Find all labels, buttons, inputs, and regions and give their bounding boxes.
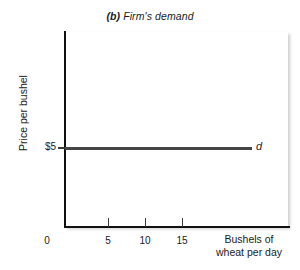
panel-letter: (b) [106,10,120,22]
y-axis-tick-label-5: $5 [26,141,56,152]
x-axis-tick-15 [182,218,183,227]
x-axis-tick-label-5: 5 [93,235,123,246]
x-axis-tick-5 [108,218,109,227]
chart-title: (b) Firm's demand [0,10,300,22]
x-axis-title-line-2: wheat per day [198,246,300,259]
y-axis-line [64,31,66,228]
demand-curve [65,147,252,150]
x-axis-tick-label-10: 10 [130,235,160,246]
demand-curve-label: d [256,140,262,152]
x-axis-title-line-1: Bushels of [198,233,300,246]
x-axis-title: Bushels of wheat per day [198,233,300,259]
plot-area [65,32,288,227]
x-axis-line [64,226,290,228]
firm-demand-chart: (b) Firm's demand $5 Price per bushel 0 … [0,0,300,270]
y-axis-title: Price per bushel [17,58,29,168]
x-axis-tick-10 [145,218,146,227]
chart-title-text: Firm's demand [123,10,193,22]
x-axis-tick-label-15: 15 [167,235,197,246]
x-axis-tick-label-0: 0 [32,235,62,246]
